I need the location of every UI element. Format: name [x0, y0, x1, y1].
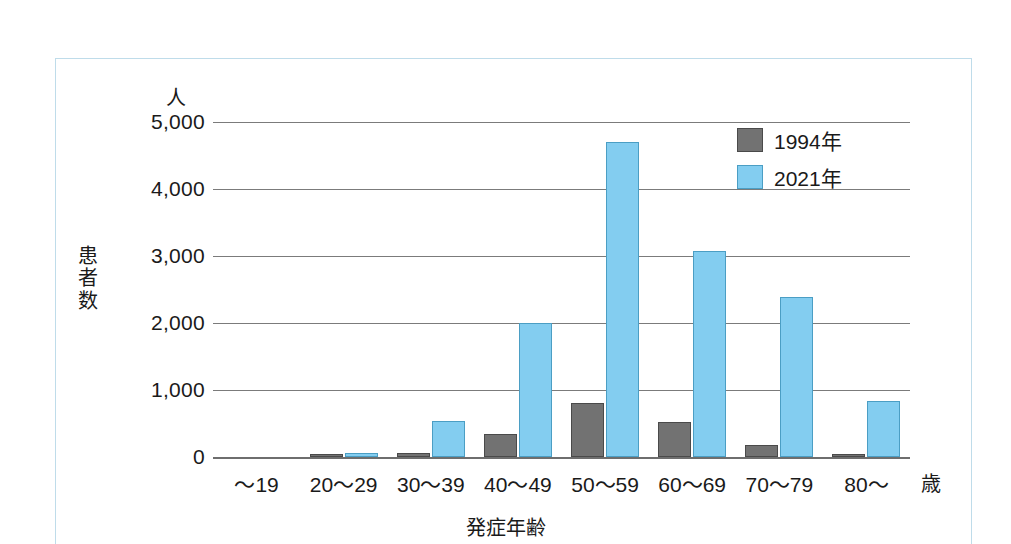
x-axis-ticks: 〜1920〜2930〜3940〜4950〜5960〜6970〜7980〜: [213, 468, 910, 498]
legend-item: 1994年: [737, 125, 842, 155]
axis-baseline: [213, 457, 910, 459]
bar-group: [387, 122, 474, 457]
y-axis-tick-label: 0: [115, 445, 205, 469]
x-axis-tick-label: 60〜69: [658, 468, 726, 498]
bar-2021: [780, 297, 813, 457]
bar-1994: [571, 403, 604, 457]
x-axis-title: 発症年齢: [0, 512, 1011, 541]
bar-group: [562, 122, 649, 457]
bar-2021: [345, 453, 378, 457]
bar-2021: [432, 421, 465, 457]
bar-group: [300, 122, 387, 457]
bar-1994: [397, 453, 430, 457]
bar-1994: [658, 422, 691, 457]
y-axis-tick-label: 4,000: [115, 177, 205, 201]
bar-2021: [693, 251, 726, 457]
legend-label: 1994年: [774, 125, 842, 155]
x-axis-tick-label: 80〜: [844, 468, 888, 498]
bar-1994: [310, 454, 343, 457]
bar-1994: [745, 445, 778, 457]
y-axis-tick-label: 5,000: [115, 110, 205, 134]
legend-label: 2021年: [774, 162, 842, 192]
x-axis-unit: 歳: [921, 468, 941, 497]
y-axis-tick-label: 2,000: [115, 311, 205, 335]
x-axis-tick-label: 50〜59: [571, 468, 639, 498]
bar-1994: [832, 454, 865, 457]
bar-2021: [606, 142, 639, 457]
x-axis-tick-label: 20〜29: [310, 468, 378, 498]
chart-legend: 1994年2021年: [733, 123, 848, 194]
legend-item: 2021年: [737, 162, 842, 192]
y-axis-title: 患者数: [74, 245, 102, 312]
x-axis-tick-label: 〜19: [234, 468, 278, 498]
y-axis-unit: 人: [166, 82, 186, 111]
x-axis-tick-label: 30〜39: [397, 468, 465, 498]
bar-group: [213, 122, 300, 457]
bar-group: [474, 122, 561, 457]
y-axis-tick-label: 1,000: [115, 378, 205, 402]
chart-figure: 人 患者数 5,0004,0003,0002,0001,0000 〜1920〜2…: [0, 0, 1011, 544]
y-axis-ticks: 5,0004,0003,0002,0001,0000: [110, 122, 205, 457]
legend-swatch-icon: [737, 165, 763, 189]
x-axis-tick-label: 70〜79: [745, 468, 813, 498]
legend-swatch-icon: [737, 128, 763, 152]
bar-2021: [867, 401, 900, 457]
x-axis-tick-label: 40〜49: [484, 468, 552, 498]
y-axis-tick-label: 3,000: [115, 244, 205, 268]
bar-group: [649, 122, 736, 457]
bar-2021: [519, 323, 552, 457]
bar-1994: [484, 434, 517, 457]
